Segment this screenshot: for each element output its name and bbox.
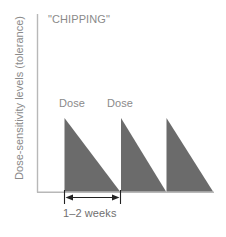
dose-decay-triangle-1	[65, 118, 121, 192]
interval-arrowhead-right	[112, 194, 120, 200]
dose-decay-triangle-2	[121, 118, 166, 192]
y-axis-title: Dose-sensitivity levels (tolerance)	[13, 13, 25, 183]
interval-duration-label: 1–2 weeks	[63, 207, 117, 219]
dose-decay-triangle-3	[167, 118, 214, 192]
interval-arrowhead-left	[66, 194, 74, 200]
dose-label-1: Dose	[59, 97, 85, 109]
chart-title: "CHIPPING"	[48, 13, 110, 25]
chart-plot-area	[0, 0, 226, 237]
chipping-tolerance-chart: "CHIPPING" Dose Dose 1–2 weeks Dose-sens…	[0, 0, 226, 237]
dose-label-2: Dose	[107, 97, 133, 109]
